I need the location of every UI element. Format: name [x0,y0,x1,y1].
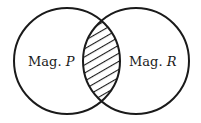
venn-diagram: Mag. P Mag. R [0,0,201,123]
set-label-r-prefix: Mag. [129,54,167,69]
set-label-p-prefix: Mag. [28,54,66,69]
set-label-r-var: R [166,54,177,69]
set-label-p: Mag. P [28,54,75,69]
set-label-r: Mag. R [129,54,177,69]
set-label-p-var: P [65,54,75,69]
